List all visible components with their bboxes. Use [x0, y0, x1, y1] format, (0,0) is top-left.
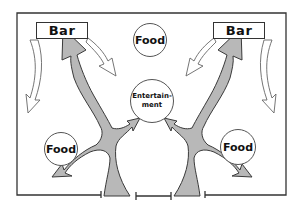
bar-right-label: Bar	[226, 23, 253, 38]
food-top-label: Food	[135, 34, 165, 47]
right-wall-down-arrow-icon	[260, 40, 276, 113]
right-to-center-arrow-icon	[186, 38, 216, 76]
bar-left-label: Bar	[49, 23, 76, 38]
food-right-circle: Food	[220, 129, 256, 165]
bar-left-box: Bar	[36, 22, 88, 39]
entertainment-label-line1: Entertain-	[132, 92, 172, 101]
entrance-marker	[136, 192, 171, 200]
food-left-circle: Food	[44, 132, 78, 166]
left-to-center-arrow-icon	[86, 38, 116, 76]
bar-right-box: Bar	[213, 22, 265, 39]
left-wall-down-arrow-icon	[26, 40, 42, 113]
food-top-circle: Food	[133, 23, 167, 57]
diagram-canvas: Bar Bar Food Food Food Entertain- ment	[0, 0, 302, 209]
food-left-label: Food	[46, 143, 76, 156]
entertainment-circle: Entertain- ment	[130, 79, 174, 123]
right-flow-arrow-icon	[164, 28, 252, 196]
entertainment-label-line2: ment	[142, 101, 162, 110]
food-right-label: Food	[223, 141, 253, 154]
